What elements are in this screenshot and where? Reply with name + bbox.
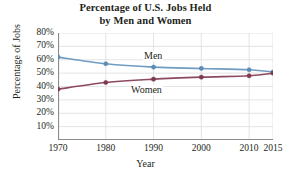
series-label-men: Men (143, 51, 163, 61)
data-point (271, 71, 273, 75)
plot-area (58, 33, 273, 140)
data-point (104, 62, 108, 66)
x-tick-label: 1970 (36, 143, 80, 153)
data-point (247, 68, 251, 72)
plot-svg (58, 33, 273, 140)
series-label-women: Women (130, 85, 163, 95)
x-tick-label: 1980 (84, 143, 128, 153)
x-tick-label: 1990 (132, 143, 176, 153)
data-point (151, 77, 155, 81)
chart-figure: Percentage of U.S. Jobs Held by Men and … (0, 0, 291, 175)
x-tick-label: 2015 (251, 143, 291, 153)
series-women (58, 71, 273, 91)
data-point (247, 74, 251, 78)
data-point (104, 80, 108, 84)
x-axis-title: Year (0, 158, 291, 169)
data-point (199, 66, 203, 70)
x-tick-label: 2000 (179, 143, 223, 153)
series-men (58, 55, 273, 74)
data-point (58, 55, 60, 59)
data-point (58, 87, 60, 91)
series-line-men (58, 57, 273, 72)
data-point (151, 65, 155, 69)
data-point (199, 75, 203, 79)
